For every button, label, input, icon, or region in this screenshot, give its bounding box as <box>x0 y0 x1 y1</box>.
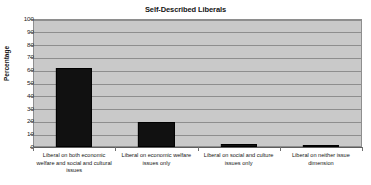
x-axis-tick-mark <box>362 147 363 151</box>
bar[interactable] <box>138 122 174 147</box>
bar[interactable] <box>56 68 92 147</box>
bar-slot <box>198 19 280 147</box>
bar-slot <box>33 19 115 147</box>
x-axis-category-label: Liberal on social and culture issues onl… <box>198 152 280 167</box>
x-axis-tick-mark <box>198 147 199 151</box>
x-axis-category-label: Liberal on economic welfare issues only <box>115 152 197 167</box>
x-axis-tick-mark <box>115 147 116 151</box>
x-axis-tick-mark <box>33 147 34 151</box>
x-axis-category-label: Liberal on both economic welfare and soc… <box>33 152 115 175</box>
bars-layer <box>33 19 362 147</box>
bar-slot <box>280 19 362 147</box>
x-axis-tick-mark <box>280 147 281 151</box>
x-axis-category-labels: Liberal on both economic welfare and soc… <box>33 152 362 184</box>
chart-title: Self-Described Liberals <box>0 5 371 14</box>
bar-slot <box>115 19 197 147</box>
x-axis-category-label: Liberal on neither issue dimension <box>280 152 362 167</box>
bar-chart: Self-Described Liberals Percentage 10090… <box>0 0 371 185</box>
